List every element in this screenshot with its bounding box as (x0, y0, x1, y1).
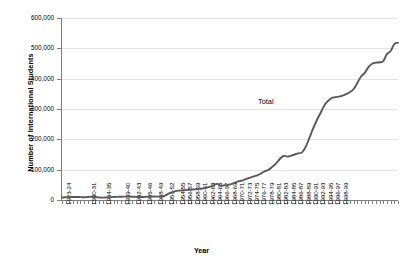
series-line-total (62, 43, 398, 198)
x-axis-tick-label: 1923-24 (65, 183, 72, 205)
x-axis-tick (80, 201, 81, 204)
x-axis-tick (372, 201, 373, 204)
x-axis-tick (350, 201, 351, 204)
x-axis-tick (376, 201, 377, 204)
y-axis-tick-label: 400,000 (0, 75, 54, 82)
x-axis-tick (380, 201, 381, 204)
x-axis-tick (361, 201, 362, 204)
y-axis-tick-label: 100,000 (0, 166, 54, 173)
x-axis-tick-label: 1966-97 (223, 183, 230, 205)
x-axis-tick (398, 201, 399, 204)
x-axis-tick (114, 201, 115, 204)
x-axis-tick (103, 201, 104, 204)
x-axis-tick-label: 1984-85 (290, 183, 297, 205)
x-axis-tick (132, 201, 133, 204)
x-axis-tick-label: 1994-95 (327, 183, 334, 205)
x-axis-tick (121, 201, 122, 204)
x-axis-tick (117, 201, 118, 204)
x-axis-tick (88, 201, 89, 204)
x-axis-tick (357, 201, 358, 204)
y-axis-tick-label: 500,000 (0, 44, 54, 51)
x-axis-tick-label: 1988-89 (305, 183, 312, 205)
y-axis-tick-label: 0 (0, 196, 54, 203)
gridline (62, 109, 398, 110)
x-axis-tick-label: 1939-40 (124, 183, 131, 205)
x-axis-tick-label: 1951-52 (168, 183, 175, 205)
x-axis-tick-label: 1986-87 (297, 183, 304, 205)
x-axis-tick-label: 1960-61 (201, 183, 208, 205)
x-axis-tick (387, 201, 388, 204)
x-axis-tick-label: 1962-63 (209, 183, 216, 205)
x-axis-tick (391, 201, 392, 204)
x-axis-tick-label: 1996-97 (334, 183, 341, 205)
x-axis-tick-label: 1964-65 (216, 183, 223, 205)
x-axis-tick-label: 1982-83 (282, 183, 289, 205)
x-axis-tick (73, 201, 74, 204)
line-chart: Number of International Students 0100,00… (0, 0, 403, 265)
x-axis-tick-label: 1998-99 (342, 183, 349, 205)
series-annotation-total: Total (258, 97, 274, 106)
x-axis-tick (354, 201, 355, 204)
x-axis-tick-label: 1992-93 (319, 183, 326, 205)
y-axis-spine (61, 18, 62, 201)
x-axis-tick-label: 1948-49 (157, 183, 164, 205)
y-axis-tick-label: 300,000 (0, 105, 54, 112)
x-axis-tick (62, 201, 63, 204)
x-axis-tick (176, 201, 177, 204)
x-axis-tick-label: 1954-55 (179, 183, 186, 205)
x-axis-tick (383, 201, 384, 204)
x-axis-tick-label: 1970-71 (238, 183, 245, 205)
x-axis-tick-label: 1972-73 (246, 183, 253, 205)
x-axis-tick-label: 1930-31 (90, 183, 97, 205)
x-axis-tick-label: 1990-91 (312, 183, 319, 205)
y-axis-tick-label: 600,000 (0, 14, 54, 21)
x-axis-tick (154, 201, 155, 204)
x-axis-tick (84, 201, 85, 204)
x-axis-tick (368, 201, 369, 204)
gridline (62, 79, 398, 80)
x-axis-tick (394, 201, 395, 204)
gridline (62, 48, 398, 49)
x-axis-tick-label: 1958-59 (194, 183, 201, 205)
x-axis-tick (77, 201, 78, 204)
x-axis-tick-label: 1968-69 (231, 183, 238, 205)
x-axis-title: Year (0, 246, 403, 255)
y-axis-tick-label: 200,000 (0, 135, 54, 142)
x-axis-tick (143, 201, 144, 204)
x-axis-tick-label: 1934-35 (105, 183, 112, 205)
x-axis-tick-label: 1956-57 (186, 183, 193, 205)
gridline (62, 18, 398, 19)
x-axis-tick (165, 201, 166, 204)
x-axis-tick (99, 201, 100, 204)
gridline (62, 170, 398, 171)
x-axis-tick-label: 1942-43 (135, 183, 142, 205)
x-axis-tick-label: 1945-46 (146, 183, 153, 205)
gridline (62, 139, 398, 140)
x-axis-tick-label: 1980-81 (275, 183, 282, 205)
x-axis-tick-label: 1978-79 (268, 183, 275, 205)
x-axis-tick-label: 1974-75 (253, 183, 260, 205)
x-axis-tick-label: 1976-77 (260, 183, 267, 205)
x-axis-tick (365, 201, 366, 204)
